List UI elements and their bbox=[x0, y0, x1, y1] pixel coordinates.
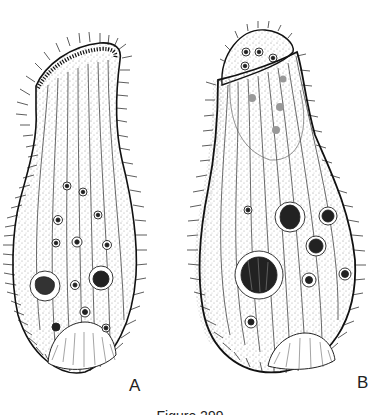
panel-b-organism bbox=[187, 21, 366, 373]
ciliate-illustration bbox=[0, 0, 380, 415]
figure: A B Figure 299 bbox=[0, 0, 380, 415]
figure-caption: Figure 299 bbox=[0, 406, 380, 415]
panel-label-a: A bbox=[129, 376, 140, 396]
panel-label-b: B bbox=[357, 373, 368, 393]
panel-a-organism bbox=[3, 32, 147, 373]
